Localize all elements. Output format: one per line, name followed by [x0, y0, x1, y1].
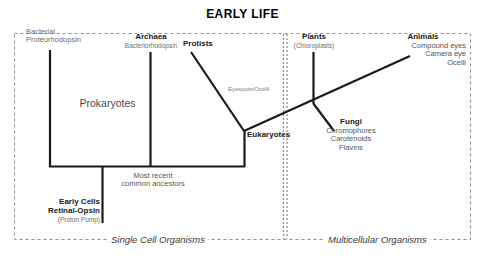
node-label-bacterial: Bacterial Proteorhodopsin — [26, 28, 81, 45]
node-label-early-cells: Early Cells Retinal-Opsin (Proton Pump) — [24, 198, 100, 223]
zone-caption-multicellular: Multicellular Organisms — [325, 229, 430, 247]
node-early-cells-sub: (Proton Pump) — [24, 216, 100, 223]
annotation-eyespots-text: Eyespots/Ocelli — [228, 86, 269, 93]
node-archaea-sub: Bacteriorhodopsin — [110, 42, 192, 49]
annotation-ancestors-line-2: common ancestors — [105, 180, 201, 188]
node-plants-sub: (Chloroplasts) — [278, 42, 350, 49]
zone-caption-single-cell: Single Cell Organisms — [108, 229, 208, 247]
node-early-cells-name-2: Retinal-Opsin — [24, 207, 100, 216]
node-protists-name: Protists — [183, 40, 213, 49]
annotation-prokaryotes: Prokaryotes — [55, 98, 160, 110]
node-archaea-name: Archaea — [110, 33, 192, 42]
zone-caption-single-cell-text: Single Cell Organisms — [108, 234, 208, 245]
node-label-protists: Protists — [183, 40, 213, 49]
annotation-prokaryotes-text: Prokaryotes — [55, 98, 160, 110]
node-plants-name: Plants — [278, 33, 350, 42]
node-eukaryotes-name: Eukaryotes — [247, 131, 290, 140]
zone-caption-multicellular-text: Multicellular Organisms — [325, 234, 430, 245]
annotation-eyespots: Eyespots/Ocelli — [228, 86, 269, 93]
node-label-eukaryotes: Eukaryotes — [247, 131, 290, 140]
node-animals-trait-3: Ocelli — [380, 59, 466, 67]
node-bacterial-sub: Proteorhodopsin — [26, 36, 81, 44]
early-life-diagram: EARLY LIFE Bacterial Proteorhodopsin Arc… — [0, 0, 485, 260]
node-label-archaea: Archaea Bacteriorhodopsin — [110, 33, 192, 49]
node-fungi-trait-3: Flavins — [312, 144, 390, 152]
node-label-fungi: Fungi Chromophores Carotenoids Flavins — [312, 118, 390, 152]
annotation-common-ancestors: Most recent common ancestors — [105, 172, 201, 189]
node-label-animals: Animals Compound eyes Camera eye Ocelli — [380, 33, 466, 67]
node-label-plants: Plants (Chloroplasts) — [278, 33, 350, 49]
diagram-title: EARLY LIFE — [0, 8, 485, 21]
